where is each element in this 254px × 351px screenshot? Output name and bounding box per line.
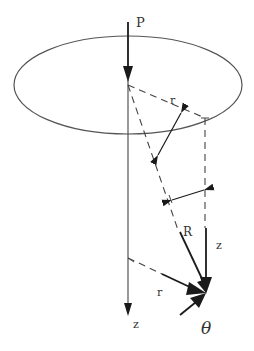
bottom-radius-dashed xyxy=(128,258,162,274)
theta-arrow xyxy=(180,302,196,315)
depth-label: z xyxy=(216,239,222,252)
z-axis-arrowhead xyxy=(124,303,132,316)
axis-label: z xyxy=(133,318,139,331)
radius-top-label: r xyxy=(170,94,176,107)
radius-bottom-label: r xyxy=(157,286,163,299)
R-arrow xyxy=(180,232,204,283)
horizontal-dimension-tick xyxy=(169,195,172,203)
load-label: P xyxy=(136,15,145,30)
horizontal-dimension-arrow xyxy=(172,190,204,200)
distance-label: R xyxy=(183,225,193,239)
surface-radius-dashed xyxy=(128,85,205,118)
r-dimension-arrow xyxy=(158,113,181,155)
boussinesq-diagram: P r R z r z θ xyxy=(0,0,254,351)
angle-label: θ xyxy=(201,318,211,338)
load-arrow-head xyxy=(123,66,133,82)
